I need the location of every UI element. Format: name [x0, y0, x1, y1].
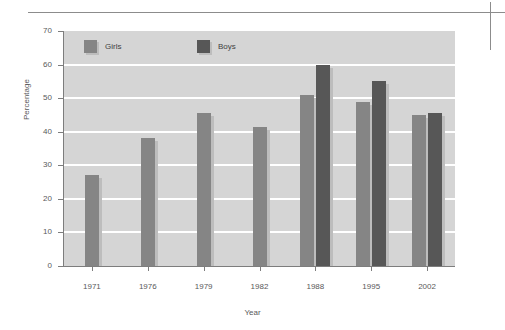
legend-label-boys: Boys	[218, 42, 236, 51]
plot-area: GirlsBoys	[64, 31, 455, 266]
x-tick-label-1971: 1971	[62, 283, 122, 291]
legend-swatch-girls	[84, 40, 97, 53]
bar-1979-girls	[197, 113, 211, 266]
legend-swatch-boys	[197, 40, 210, 53]
y-tick-label-wrap: 70	[22, 27, 52, 35]
x-tick-mark	[427, 266, 428, 271]
y-tick-label-wrap: 20	[22, 195, 52, 203]
crop-mark-vertical-line	[490, 2, 491, 50]
y-tick-label-wrap: 30	[22, 161, 52, 169]
y-tick-mark	[58, 31, 64, 32]
chart-legend: GirlsBoys	[64, 31, 455, 61]
bar-1976-girls	[141, 138, 155, 266]
y-axis-title: Percentage	[22, 79, 31, 120]
y-tick-mark	[58, 65, 64, 66]
x-tick-label-1988: 1988	[285, 283, 345, 291]
gridline	[64, 97, 455, 99]
x-tick-label-1982: 1982	[230, 283, 290, 291]
y-tick-label: 20	[26, 195, 52, 203]
legend-label-girls: Girls	[105, 42, 121, 51]
y-tick-label: 10	[26, 228, 52, 236]
y-tick-mark	[58, 98, 64, 99]
y-tick-label: 30	[26, 161, 52, 169]
y-tick-label: 40	[26, 128, 52, 136]
x-tick-mark	[260, 266, 261, 271]
x-tick-mark	[204, 266, 205, 271]
y-tick-mark	[58, 266, 64, 267]
x-tick-label-1979: 1979	[174, 283, 234, 291]
bar-2002-boys	[428, 113, 442, 266]
bar-1995-boys	[372, 81, 386, 266]
y-tick-label: 70	[26, 27, 52, 35]
x-tick-label-2002: 2002	[397, 283, 457, 291]
x-axis-title: Year	[0, 308, 505, 317]
x-axis-line	[63, 266, 455, 267]
y-tick-label-wrap: 10	[22, 228, 52, 236]
x-tick-label-1995: 1995	[341, 283, 401, 291]
x-tick-mark	[148, 266, 149, 271]
y-tick-label-wrap: 0	[22, 262, 52, 270]
y-tick-mark	[58, 165, 64, 166]
bar-1982-girls	[253, 127, 267, 266]
y-tick-mark	[58, 132, 64, 133]
y-tick-mark	[58, 199, 64, 200]
x-tick-mark	[371, 266, 372, 271]
x-tick-label-1976: 1976	[118, 283, 178, 291]
bar-2002-girls	[412, 115, 426, 266]
gridline	[64, 64, 455, 66]
y-tick-mark	[58, 232, 64, 233]
bar-1988-girls	[300, 95, 314, 266]
bar-1995-girls	[356, 102, 370, 267]
chart-figure: GirlsBoys 010203040506070 19711976197919…	[0, 0, 505, 330]
bar-1971-girls	[85, 175, 99, 266]
y-tick-label-wrap: 60	[22, 61, 52, 69]
y-tick-label-wrap: 40	[22, 128, 52, 136]
y-tick-label: 60	[26, 61, 52, 69]
crop-mark-horizontal-line	[28, 12, 505, 13]
y-tick-label: 0	[26, 262, 52, 270]
bar-1988-boys	[316, 65, 330, 266]
x-tick-mark	[92, 266, 93, 271]
x-tick-mark	[315, 266, 316, 271]
